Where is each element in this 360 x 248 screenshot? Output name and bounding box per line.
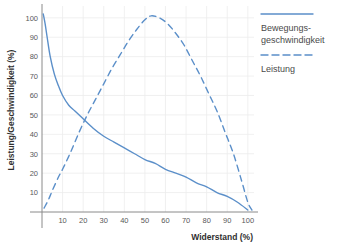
y-tick-label: 100 [25,14,38,23]
y-tick-label: 90 [30,33,38,42]
x-tick-label: 40 [120,216,128,225]
y-tick-label: 10 [30,188,38,197]
x-tick-label: 10 [58,216,66,225]
x-tick-label: 100 [242,216,255,225]
x-tick-label: 80 [202,216,210,225]
series-line-leistung [44,16,252,210]
y-tick-label: 40 [30,130,38,139]
series-group [43,14,252,210]
x-axis-title: Widerstand (%) [191,232,253,242]
gridlines-group [42,6,254,212]
x-tick-label: 50 [141,216,149,225]
x-tick-label: 20 [79,216,87,225]
resistance-speed-power-chart: 102030405060708090100 102030405060708090… [0,0,360,248]
y-tick-label: 30 [30,150,38,159]
x-tick-label: 90 [223,216,231,225]
chart-container: 102030405060708090100 102030405060708090… [0,0,360,248]
legend-label-leistung: Leistung [261,64,295,74]
y-tick-label: 20 [30,169,38,178]
legend-label-bewegungsgeschwindigkeit-line1: Bewegungs- [261,23,311,33]
x-tick-label: 60 [161,216,169,225]
legend-label-bewegungsgeschwindigkeit-line2: geschwindigkeit [261,35,325,45]
x-tick-labels-group: 102030405060708090100 [58,216,254,225]
x-tick-label: 70 [182,216,190,225]
y-tick-label: 80 [30,52,38,61]
y-tick-labels-group: 102030405060708090100 [25,14,38,198]
x-tick-label: 30 [100,216,108,225]
legend: Bewegungs- geschwindigkeit Leistung [261,14,325,74]
y-tick-label: 60 [30,91,38,100]
y-tick-label: 70 [30,72,38,81]
y-axis-title: Leistung/Geschwindigkeit (%) [6,49,16,170]
y-tick-label: 50 [30,111,38,120]
